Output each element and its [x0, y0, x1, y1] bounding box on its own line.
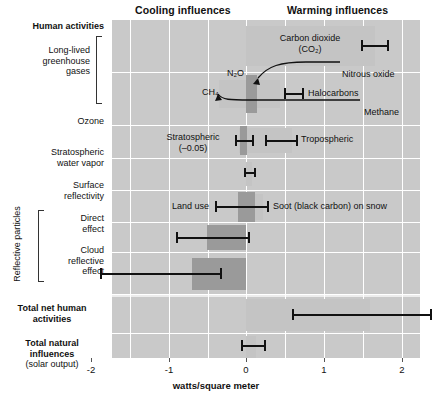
radiative-forcing-chart: Cooling influences Warming influences: [0, 0, 432, 415]
errorbar-direct-effect: [176, 237, 249, 239]
errorbar-cap: [430, 309, 432, 320]
axis-tick-minus2: [91, 358, 92, 362]
axis-ticklabel-minus1: -1: [154, 364, 184, 375]
row-label-total-net-human-activities: Total net human activities: [0, 303, 104, 324]
label-land-use: Land use: [172, 201, 209, 212]
errorbar-cap: [215, 201, 217, 212]
errorbar-cap: [244, 168, 246, 177]
group-label-human-activities: Human activities: [0, 21, 104, 32]
errorbar-cap: [302, 88, 304, 99]
tnh-line2: activities: [33, 314, 72, 324]
row-label-surface-reflectivity: Surface reflectivity: [0, 180, 104, 201]
bar-nitrous-oxide: [246, 75, 257, 113]
errorbar-ozone-tropospheric: [265, 140, 297, 142]
axis-tick-minus1: [169, 358, 170, 362]
label-soot: Soot (black carbon) on snow: [273, 201, 387, 212]
label-carbon-dioxide: Carbon dioxide (CO₂): [256, 33, 364, 55]
errorbar-cap: [254, 168, 256, 177]
errorbar-cap: [296, 135, 298, 146]
errorbar-carbon-dioxide: [361, 45, 388, 47]
label-nitrous-oxide: Nitrous oxide: [342, 69, 395, 80]
row-separator: [112, 294, 420, 295]
errorbar-cap: [220, 268, 222, 279]
sr-line2: reflectivity: [64, 191, 104, 201]
errorbar-cap: [176, 232, 178, 243]
swv-line1: Stratospheric: [51, 147, 104, 157]
errorbar-cap: [284, 88, 286, 99]
carbon-dioxide-line1: Carbon dioxide: [280, 33, 341, 43]
errorbar-cap: [292, 309, 294, 320]
errorbar-ozone-stratospheric: [235, 140, 253, 142]
errorbar-cap: [241, 340, 243, 351]
tni-line1: Total natural: [25, 338, 78, 348]
row-band: [112, 334, 420, 358]
cooling-influences-header: Cooling influences: [135, 4, 231, 16]
stratospheric-line1: Stratospheric: [166, 132, 219, 142]
bracket-reflective-particles: [38, 210, 39, 282]
long-lived-line1: Long-lived: [48, 45, 90, 55]
errorbar-total-natural-influences: [241, 345, 265, 347]
stratospheric-line2: (–0.05): [179, 143, 208, 153]
row-band: [112, 159, 420, 190]
rp-line1: Reflective particles: [12, 206, 22, 282]
bar-stratospheric-water-vapor: [246, 162, 252, 186]
row-separator: [112, 252, 420, 253]
bar-total-natural-influences: [246, 336, 256, 358]
row-separator: [112, 222, 420, 223]
errorbar-cap: [252, 135, 254, 146]
long-lived-line3: gases: [66, 66, 90, 76]
errorbar-cap: [264, 340, 266, 351]
label-methane: Methane: [364, 107, 399, 118]
row-separator: [112, 333, 420, 334]
axis-tick-zero: [246, 358, 247, 362]
axis-ticklabel-zero: 0: [231, 364, 261, 375]
errorbar-cloud-reflective-effect: [100, 273, 222, 275]
carbon-dioxide-line2: (CO₂): [299, 44, 322, 54]
tni-line2: influences: [30, 349, 75, 359]
axis-tick-one: [324, 358, 325, 362]
row-separator: [112, 158, 420, 159]
errorbar-cap: [265, 135, 267, 146]
row-label-ozone: Ozone: [0, 116, 104, 127]
group-label-reflective-particles: Reflective particles: [12, 206, 23, 282]
swv-line2: water vapor: [57, 158, 104, 168]
row-band: [112, 223, 420, 252]
label-n2o-inline: N₂O: [227, 68, 244, 79]
errorbar-total-net-human-activities: [292, 314, 432, 316]
ce-line3: effect: [82, 266, 104, 276]
gridline-x-two: [402, 20, 403, 358]
errorbar-cap: [248, 232, 250, 243]
row-label-stratospheric-water-vapor: Stratospheric water vapor: [0, 147, 104, 168]
axis-title: watts/square meter: [0, 380, 432, 391]
ce-line2: reflective: [68, 256, 104, 266]
errorbar-cap: [387, 40, 389, 51]
de-line1: Direct: [80, 213, 104, 223]
errorbar-cap: [235, 135, 237, 146]
errorbar-surface-reflectivity: [215, 206, 268, 208]
group-label-long-lived-greenhouse-gases: Long-lived greenhouse gases: [0, 45, 90, 77]
de-line2: effect: [82, 224, 104, 234]
sr-line1: Surface: [73, 180, 104, 190]
bracket-long-lived: [96, 36, 97, 104]
tni-line3: (solar output): [25, 359, 78, 369]
plot-area: Carbon dioxide (CO₂) N₂O CH₄ Nitrous oxi…: [112, 20, 420, 358]
label-ch4-inline: CH₄: [202, 87, 219, 98]
tnh-line1: Total net human: [18, 303, 87, 313]
label-halocarbons: Halocarbons: [308, 88, 359, 99]
gridline-x-mid1: [130, 20, 131, 358]
errorbar-halocarbons: [284, 93, 303, 95]
label-ozone-stratospheric: Stratospheric (–0.05): [154, 132, 232, 154]
axis-ticklabel-two: 2: [387, 364, 417, 375]
row-separator: [112, 125, 420, 126]
ce-line1: Cloud: [80, 245, 104, 255]
gridline-x-mid2: [208, 20, 209, 358]
errorbar-cap: [267, 201, 269, 212]
axis-tick-two: [402, 358, 403, 362]
label-ozone-tropospheric: Tropospheric: [301, 134, 353, 145]
long-lived-line2: greenhouse: [42, 56, 90, 66]
axis-ticklabel-minus2: -2: [76, 364, 106, 375]
warming-influences-header: Warming influences: [287, 4, 388, 16]
gridline-x-minus1: [169, 20, 170, 358]
row-separator: [112, 190, 420, 191]
axis-ticklabel-one: 1: [309, 364, 339, 375]
